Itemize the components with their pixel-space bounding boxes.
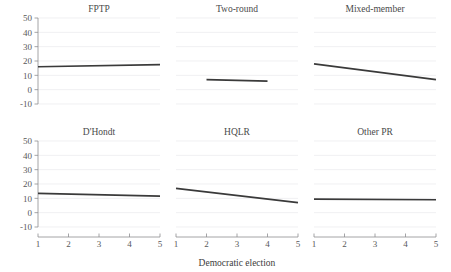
panels-layer: FPTP50403020100-10Two-roundMixed-memberD… — [20, 4, 439, 249]
y-tick-label: 30 — [23, 42, 33, 52]
small-multiples-line-chart: FPTP50403020100-10Two-roundMixed-memberD… — [0, 0, 451, 272]
y-tick-label: 0 — [28, 85, 33, 95]
x-tick-label: 3 — [97, 239, 102, 249]
y-tick-label: 10 — [23, 194, 33, 204]
x-tick-label: 4 — [265, 239, 270, 249]
series-line — [314, 199, 436, 200]
y-tick-label: 40 — [23, 28, 33, 38]
x-tick-label: 1 — [312, 239, 317, 249]
panel-two-round: Two-round — [176, 4, 298, 104]
x-axis-title: Democratic election — [199, 258, 276, 268]
y-tick-label: 30 — [23, 165, 33, 175]
series-line — [207, 80, 268, 81]
x-tick-label: 5 — [158, 239, 163, 249]
panel-title: HQLR — [224, 127, 251, 137]
x-tick-label: 3 — [235, 239, 240, 249]
x-tick-label: 2 — [204, 239, 209, 249]
x-tick-label: 3 — [373, 239, 378, 249]
panel-title: D'Hondt — [83, 127, 116, 137]
panel-title: Mixed-member — [345, 4, 405, 14]
x-tick-label: 4 — [127, 239, 132, 249]
series-line — [314, 64, 436, 80]
y-tick-label: 0 — [28, 208, 33, 218]
panel-title: Other PR — [357, 127, 393, 137]
x-tick-label: 5 — [296, 239, 301, 249]
panel-mixed-member: Mixed-member — [314, 4, 436, 104]
series-line — [176, 188, 298, 202]
x-tick-label: 4 — [403, 239, 408, 249]
series-line — [38, 65, 160, 67]
panel-title: Two-round — [216, 4, 258, 14]
x-tick-label: 1 — [174, 239, 179, 249]
y-tick-label: -10 — [20, 222, 32, 232]
panel-fptp: FPTP50403020100-10 — [20, 4, 160, 109]
y-tick-label: 50 — [23, 13, 33, 23]
y-tick-label: -10 — [20, 99, 32, 109]
y-tick-label: 20 — [23, 56, 33, 66]
y-tick-label: 40 — [23, 151, 33, 161]
panel-dhondt: D'Hondt50403020100-1012345 — [20, 127, 163, 249]
x-tick-label: 2 — [342, 239, 347, 249]
x-tick-label: 1 — [36, 239, 41, 249]
x-tick-label: 2 — [66, 239, 71, 249]
y-tick-label: 50 — [23, 136, 33, 146]
panel-title: FPTP — [88, 4, 110, 14]
y-tick-label: 20 — [23, 179, 33, 189]
panel-hqlr: HQLR12345 — [174, 127, 301, 249]
panel-other-pr: Other PR12345 — [312, 127, 439, 249]
series-line — [38, 193, 160, 196]
x-tick-label: 5 — [434, 239, 439, 249]
y-tick-label: 10 — [23, 71, 33, 81]
